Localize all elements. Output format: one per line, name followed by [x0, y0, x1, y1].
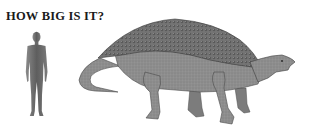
armored-dinosaur: [79, 19, 295, 124]
human-silhouette: [26, 32, 48, 116]
size-comparison-illustration: [0, 0, 314, 136]
